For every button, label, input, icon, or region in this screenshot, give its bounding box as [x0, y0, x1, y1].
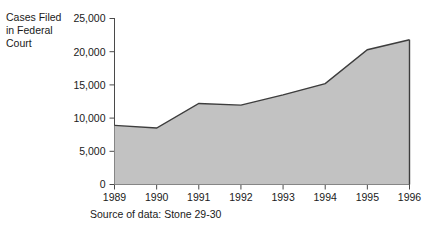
- y-tick-label: 15,000: [73, 79, 105, 91]
- y-tick-label: 25,000: [73, 12, 105, 24]
- y-axis-ticks: 05,00010,00015,00020,00025,000: [73, 12, 114, 190]
- x-tick-label: 1989: [103, 191, 127, 203]
- y-tick-label: 0: [100, 178, 106, 190]
- x-tick-label: 1992: [229, 191, 253, 203]
- x-tick-label: 1993: [271, 191, 295, 203]
- x-tick-label: 1995: [356, 191, 380, 203]
- source-caption: Source of data: Stone 29-30: [90, 208, 221, 221]
- y-tick-label: 5,000: [79, 145, 105, 157]
- y-tick-label: 20,000: [73, 46, 105, 58]
- x-tick-label: 1996: [398, 191, 422, 203]
- chart-figure: Cases Filed in Federal Court 05,00010,00…: [0, 0, 423, 228]
- area-chart-plot: 05,00010,00015,00020,00025,000 198919901…: [0, 0, 423, 228]
- y-tick-label: 10,000: [73, 112, 105, 124]
- x-axis-ticks: 19891990199119921993199419951996: [103, 185, 422, 203]
- x-tick-label: 1990: [145, 191, 169, 203]
- x-tick-label: 1994: [314, 191, 338, 203]
- area-fill: [115, 40, 410, 185]
- x-tick-label: 1991: [187, 191, 211, 203]
